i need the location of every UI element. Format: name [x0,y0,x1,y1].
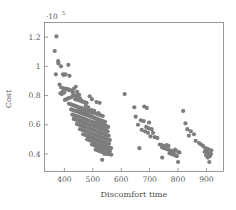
y-tick-label: 0.6 [28,120,40,129]
data-point [209,148,213,152]
data-point [78,96,82,100]
data-point [207,160,211,164]
data-point [123,92,127,96]
data-point [132,105,136,109]
data-point [67,74,71,78]
data-point [151,131,155,135]
y-axis-exponent-power: 5 [62,10,65,16]
data-point [187,134,191,138]
data-point [181,109,185,113]
data-point [175,154,179,158]
data-point [62,73,66,77]
data-point [92,109,96,113]
data-point [63,98,67,102]
data-point [142,119,146,123]
y-axis-exponent-label: ·10 5 [46,10,65,21]
x-tick-label: 500 [86,175,101,184]
x-tick-label: 700 [142,175,157,184]
y-tick-label: 1.2 [28,33,40,42]
data-point [98,101,102,105]
data-point [74,104,78,108]
data-point [106,125,110,129]
plot-canvas: ·10 5 400500600700800900 0.40.60.811.2 D… [0,0,236,210]
data-point [203,150,207,154]
x-tick-label: 600 [114,175,129,184]
data-point [160,156,164,160]
data-point [71,91,75,95]
data-point [145,106,149,110]
y-tick-label: 0.4 [28,150,40,159]
data-point [90,97,94,101]
y-axis-exponent-text: ·10 [46,12,58,21]
x-tick-label: 800 [171,175,186,184]
y-tick-label: 0.8 [28,91,40,100]
data-point [147,120,151,124]
data-point [148,134,152,138]
data-point [146,131,150,135]
data-point [107,150,111,154]
data-point [59,64,63,68]
x-tick-label: 400 [57,175,72,184]
data-point [155,136,159,140]
data-point [60,92,64,96]
data-point [96,111,100,115]
data-point [177,150,181,154]
data-point [176,160,180,164]
data-point [192,132,196,136]
data-point [183,121,187,125]
y-axis-ticks: 0.40.60.811.2 [28,33,48,159]
y-axis-title: Cost [3,89,13,108]
data-point [206,156,210,160]
data-point [189,129,193,133]
data-point [137,146,141,150]
data-point [66,63,70,67]
data-point [54,34,58,38]
data-point [74,93,78,97]
x-axis-title: Discomfort time [101,189,168,199]
data-point [86,105,90,109]
x-tick-label: 900 [199,175,214,184]
data-point [100,158,104,162]
data-points-layer [53,34,214,164]
data-point [101,114,105,118]
data-point [74,85,78,89]
y-tick-label: 1 [36,62,41,71]
data-point [54,72,58,76]
data-point [136,123,140,127]
scatter-chart-figure: ·10 5 400500600700800900 0.40.60.811.2 D… [0,0,236,210]
x-axis-ticks: 400500600700800900 [57,168,214,184]
data-point [150,127,154,131]
data-point [134,115,138,119]
data-point [53,49,57,53]
